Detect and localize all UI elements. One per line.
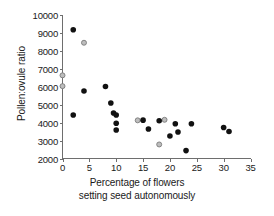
data-point-filled — [167, 133, 173, 139]
filled-marker-series — [70, 27, 231, 153]
x-tick-label: 10 — [103, 162, 129, 173]
x-axis-title: Percentage of flowers setting seed auton… — [0, 177, 274, 202]
data-point-open — [135, 118, 140, 123]
data-point-filled — [70, 27, 76, 33]
data-point-open — [157, 142, 162, 147]
data-point-filled — [81, 88, 87, 94]
data-point-filled — [146, 126, 152, 132]
x-tick-label: 30 — [211, 162, 237, 173]
x-tick-label: 25 — [184, 162, 210, 173]
data-point-filled — [226, 129, 232, 135]
data-point-filled — [103, 84, 109, 90]
data-point-open — [60, 73, 65, 78]
data-point-open — [60, 84, 65, 89]
data-point-filled — [70, 112, 76, 118]
data-point-open — [81, 40, 86, 45]
x-tick-label: 5 — [76, 162, 102, 173]
data-point-filled — [189, 121, 195, 127]
axes — [63, 15, 251, 159]
x-tick-label: 35 — [238, 162, 264, 173]
data-point-filled — [140, 117, 146, 123]
data-point-filled — [113, 120, 119, 126]
data-point-open — [162, 117, 167, 122]
data-point-filled — [113, 127, 119, 133]
data-point-filled — [183, 148, 189, 154]
scatter-plot-figure: Pollen:ovule ratio 200030004000500060007… — [0, 0, 274, 216]
data-point-filled — [221, 125, 227, 131]
x-tick-label: 0 — [50, 162, 76, 173]
data-point-filled — [173, 121, 179, 127]
x-axis-title-line1: Percentage of flowers — [0, 177, 274, 190]
data-point-filled — [156, 118, 162, 124]
data-point-filled — [108, 100, 114, 106]
data-point-filled — [113, 112, 119, 118]
x-axis-title-line2: setting seed autonomously — [0, 190, 274, 203]
x-tick-label: 20 — [157, 162, 183, 173]
data-point-filled — [175, 129, 181, 135]
open-marker-series — [60, 40, 167, 147]
x-tick-label: 15 — [130, 162, 156, 173]
